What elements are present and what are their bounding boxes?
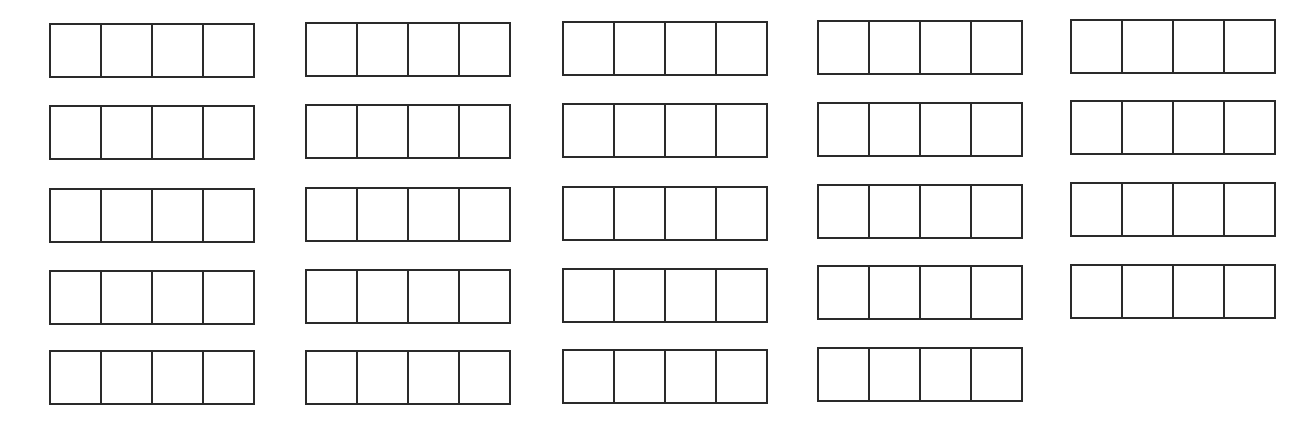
answer-box[interactable] [1174,184,1225,235]
answer-box[interactable] [921,186,972,237]
answer-box[interactable] [615,188,666,239]
answer-box[interactable] [1072,21,1123,72]
answer-box[interactable] [615,351,666,402]
answer-box[interactable] [870,349,921,400]
answer-box[interactable] [153,25,204,76]
answer-box[interactable] [307,24,358,75]
answer-box[interactable] [921,104,972,155]
answer-box[interactable] [921,267,972,318]
answer-box[interactable] [870,104,921,155]
answer-box[interactable] [564,23,615,74]
answer-box[interactable] [1072,266,1123,317]
answer-box[interactable] [1123,266,1174,317]
answer-box[interactable] [1225,266,1274,317]
answer-box[interactable] [460,106,509,157]
answer-box[interactable] [460,271,509,322]
answer-box[interactable] [615,105,666,156]
answer-box[interactable] [51,272,102,323]
answer-box[interactable] [819,186,870,237]
answer-box[interactable] [409,189,460,240]
answer-box[interactable] [972,349,1021,400]
answer-box[interactable] [717,23,766,74]
answer-box[interactable] [564,270,615,321]
answer-box[interactable] [409,24,460,75]
answer-box[interactable] [870,186,921,237]
answer-box[interactable] [615,270,666,321]
answer-box[interactable] [717,188,766,239]
answer-box[interactable] [102,25,153,76]
box-group-c2-r1 [305,22,511,77]
answer-box[interactable] [102,352,153,403]
answer-box[interactable] [1072,184,1123,235]
answer-box[interactable] [358,189,409,240]
answer-box[interactable] [153,190,204,241]
answer-box[interactable] [153,272,204,323]
box-group-c4-r1 [817,20,1023,75]
answer-box[interactable] [460,189,509,240]
answer-box[interactable] [307,271,358,322]
answer-box[interactable] [666,23,717,74]
answer-box[interactable] [153,107,204,158]
answer-box[interactable] [358,271,409,322]
answer-box[interactable] [717,351,766,402]
answer-box[interactable] [666,105,717,156]
answer-box[interactable] [666,270,717,321]
answer-box[interactable] [819,22,870,73]
answer-box[interactable] [1225,102,1274,153]
answer-box[interactable] [204,190,253,241]
answer-box[interactable] [615,23,666,74]
answer-box[interactable] [666,188,717,239]
answer-box[interactable] [564,351,615,402]
answer-box[interactable] [204,272,253,323]
answer-box[interactable] [1225,184,1274,235]
answer-box[interactable] [102,107,153,158]
answer-box[interactable] [51,190,102,241]
answer-box[interactable] [717,270,766,321]
answer-box[interactable] [204,107,253,158]
answer-box[interactable] [1174,266,1225,317]
answer-box[interactable] [460,352,509,403]
answer-box[interactable] [666,351,717,402]
answer-box[interactable] [1174,102,1225,153]
answer-box[interactable] [1174,21,1225,72]
answer-box[interactable] [819,349,870,400]
answer-box[interactable] [460,24,509,75]
answer-box[interactable] [1123,184,1174,235]
answer-box[interactable] [1123,102,1174,153]
answer-box[interactable] [358,24,409,75]
answer-box[interactable] [564,105,615,156]
answer-box[interactable] [819,267,870,318]
answer-box[interactable] [921,349,972,400]
box-group-c3-r1 [562,21,768,76]
answer-box[interactable] [564,188,615,239]
answer-box[interactable] [717,105,766,156]
answer-box[interactable] [972,186,1021,237]
answer-box[interactable] [102,190,153,241]
answer-box[interactable] [870,267,921,318]
answer-box[interactable] [204,352,253,403]
answer-box[interactable] [307,106,358,157]
answer-box[interactable] [972,104,1021,155]
answer-box[interactable] [819,104,870,155]
answer-box[interactable] [409,352,460,403]
answer-box[interactable] [870,22,921,73]
answer-box[interactable] [102,272,153,323]
answer-box[interactable] [1123,21,1174,72]
answer-box[interactable] [153,352,204,403]
answer-box[interactable] [358,352,409,403]
answer-box[interactable] [51,25,102,76]
answer-box[interactable] [307,189,358,240]
box-group-c1-r5 [49,350,255,405]
answer-box[interactable] [409,271,460,322]
answer-box[interactable] [204,25,253,76]
answer-box[interactable] [358,106,409,157]
answer-box[interactable] [972,22,1021,73]
answer-box[interactable] [51,352,102,403]
answer-box[interactable] [409,106,460,157]
answer-box[interactable] [1072,102,1123,153]
answer-box[interactable] [307,352,358,403]
answer-box[interactable] [1225,21,1274,72]
answer-box[interactable] [51,107,102,158]
answer-box[interactable] [972,267,1021,318]
answer-box[interactable] [921,22,972,73]
